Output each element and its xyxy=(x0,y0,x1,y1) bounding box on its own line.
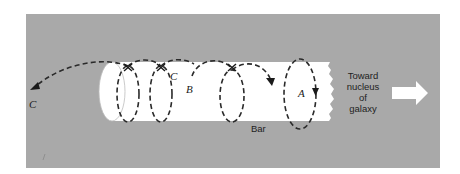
direction-label-line-3: of xyxy=(359,92,367,103)
label-b: B xyxy=(186,83,193,95)
direction-label-line-2: nucleus xyxy=(347,81,380,92)
label-bar: Bar xyxy=(251,123,266,134)
label-c-outer: C xyxy=(29,98,37,110)
label-a: A xyxy=(297,87,305,99)
direction-label-line-4: galaxy xyxy=(349,103,377,114)
label-c-inner: C xyxy=(170,70,178,82)
direction-label-line-1: Toward xyxy=(348,70,379,81)
galaxy-bar-orbit-diagram: C C B A Bar Toward nucleus of galaxy xyxy=(0,0,460,174)
